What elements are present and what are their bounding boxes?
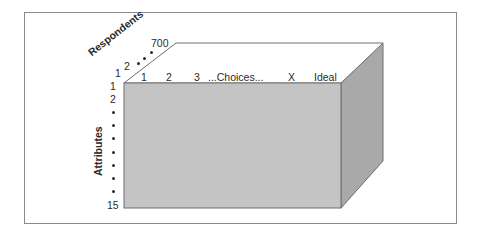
respondents-tick-700: 700 [151, 38, 169, 49]
cube-front-face [124, 83, 341, 208]
attributes-tick-1: 1 [110, 81, 116, 92]
choices-tick-x: X [288, 72, 295, 83]
attributes-ellipsis-dot [112, 151, 115, 154]
attributes-axis-title: Attributes [92, 126, 104, 176]
choices-tick-ideal: Ideal [314, 72, 337, 83]
respondents-ellipsis-dot [150, 51, 153, 54]
respondents-ellipsis-dot [143, 57, 146, 60]
attributes-ellipsis-dot [112, 124, 115, 127]
attributes-ellipsis-dot [112, 137, 115, 140]
attributes-ellipsis-dot [112, 177, 115, 180]
attributes-ellipsis-dot [112, 111, 115, 114]
respondents-ellipsis-dot [137, 62, 140, 65]
attributes-ellipsis-dot [112, 190, 115, 193]
attributes-ellipsis-dot [112, 164, 115, 167]
attributes-tick-2: 2 [110, 94, 116, 105]
data-cube [0, 0, 481, 237]
respondents-tick-1: 1 [115, 68, 121, 79]
choices-tick-2: 2 [166, 72, 172, 83]
attributes-tick-15: 15 [107, 200, 119, 211]
choices-label: ...Choices... [208, 72, 263, 83]
respondents-tick-2: 2 [124, 61, 130, 72]
choices-tick-1: 1 [141, 72, 147, 83]
choices-tick-3: 3 [194, 72, 200, 83]
